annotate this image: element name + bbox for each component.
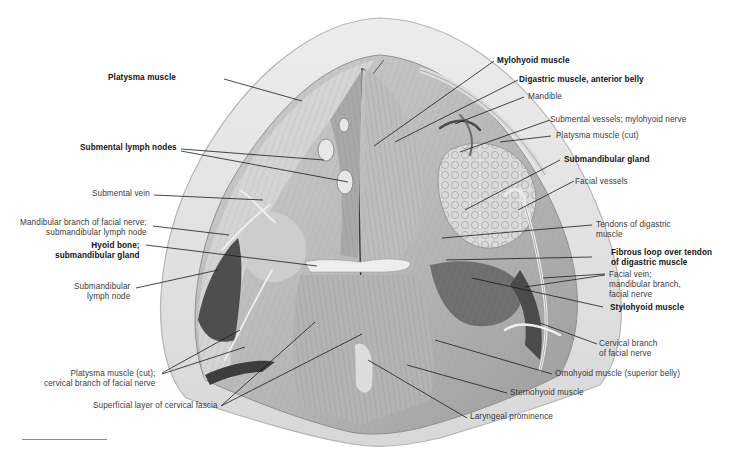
label-text-line2: cervical branch of facial nerve <box>44 379 155 389</box>
label-submental-lymph-nodes: Submental lymph nodes <box>80 143 177 153</box>
label-text-line1: Mandibular branch of facial nerve; <box>20 218 147 228</box>
label-text-line2: submandibular lymph node <box>20 228 147 238</box>
label-text: Laryngeal prominence <box>470 412 553 422</box>
label-laryngeal-prominence: Laryngeal prominence <box>470 412 553 422</box>
label-text: Platysma muscle <box>108 73 176 83</box>
label-mandibular-branch-facial-nerve: Mandibular branch of facial nerve; subma… <box>20 218 147 238</box>
label-text: Omohyoid muscle (superior belly) <box>555 369 680 379</box>
label-text: Digastric muscle, anterior belly <box>519 75 644 85</box>
label-omohyoid-muscle: Omohyoid muscle (superior belly) <box>555 369 680 379</box>
label-text-line1: Platysma muscle (cut); <box>44 369 155 379</box>
label-platysma-muscle: Platysma muscle <box>108 73 176 83</box>
strap-muscles <box>293 275 434 425</box>
label-cervical-branch-facial-nerve: Cervical branch of facial nerve <box>599 339 657 359</box>
label-text-line1: Cervical branch <box>599 339 657 349</box>
label-text-line1: Fibrous loop over tendon <box>611 248 712 258</box>
label-text-line2: muscle <box>596 230 671 240</box>
label-text: Stylohyoid muscle <box>610 303 684 313</box>
label-text: Superficial layer of cervical fascia <box>93 401 218 411</box>
label-platysma-cut-cervical-branch: Platysma muscle (cut); cervical branch o… <box>44 369 155 389</box>
label-mylohyoid-muscle: Mylohyoid muscle <box>497 56 570 66</box>
footer-rule <box>22 439 107 440</box>
label-digastric-anterior-belly: Digastric muscle, anterior belly <box>519 75 644 85</box>
label-submandibular-lymph-node: Submandibular lymph node <box>74 282 130 302</box>
label-text-line2: of digastric muscle <box>611 258 712 268</box>
label-superficial-cervical-fascia: Superficial layer of cervical fascia <box>93 401 218 411</box>
label-submental-vessels-mylohyoid-nerve: Submental vessels; mylohyoid nerve <box>550 115 686 125</box>
label-text-line2: submandibular gland <box>55 251 140 261</box>
label-text: Mylohyoid muscle <box>497 56 570 66</box>
label-fibrous-loop-digastric-tendon: Fibrous loop over tendon of digastric mu… <box>611 248 712 268</box>
label-hyoid-bone-submandibular-gland: Hyoid bone; submandibular gland <box>55 241 140 261</box>
label-stylohyoid-muscle: Stylohyoid muscle <box>610 303 684 313</box>
label-platysma-muscle-cut: Platysma muscle (cut) <box>556 131 639 141</box>
label-text: Submental vein <box>92 189 150 199</box>
label-tendons-of-digastric-muscle: Tendons of digastric muscle <box>596 220 671 240</box>
label-text-line2: lymph node <box>74 292 130 302</box>
label-text-line1: Tendons of digastric <box>596 220 671 230</box>
label-sternohyoid-muscle: Sternohyoid muscle <box>510 388 584 398</box>
label-text: Submental vessels; mylohyoid nerve <box>550 115 686 125</box>
label-text-line3: facial nerve <box>609 290 681 300</box>
label-text: Mandible <box>528 92 562 102</box>
label-text: Submandibular gland <box>564 155 650 165</box>
label-text-line1: Submandibular <box>74 282 130 292</box>
label-text: Sternohyoid muscle <box>510 388 584 398</box>
label-facial-vessels: Facial vessels <box>575 177 628 187</box>
label-submental-vein: Submental vein <box>92 189 150 199</box>
label-facial-vein-mandibular-branch: Facial vein; mandibular branch, facial n… <box>609 270 681 300</box>
label-text: Submental lymph nodes <box>80 143 177 153</box>
label-text: Platysma muscle (cut) <box>556 131 639 141</box>
label-text-line1: Facial vein; <box>609 270 681 280</box>
label-mandible: Mandible <box>528 92 562 102</box>
label-text: Facial vessels <box>575 177 628 187</box>
label-text-line2: of facial nerve <box>599 349 657 359</box>
label-text-line1: Hyoid bone; <box>55 241 140 251</box>
label-submandibular-gland: Submandibular gland <box>564 155 650 165</box>
label-text-line2: mandibular branch, <box>609 280 681 290</box>
